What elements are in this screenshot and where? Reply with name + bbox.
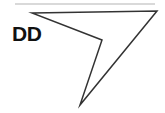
shape-label-dd: DD [12, 23, 41, 44]
diagram-svg [0, 0, 165, 113]
diagram-canvas: DD [0, 0, 165, 113]
dd-polygon-shape [32, 11, 157, 105]
